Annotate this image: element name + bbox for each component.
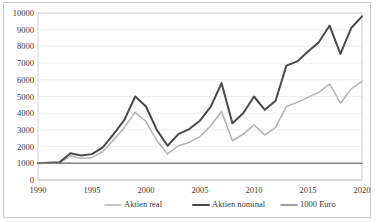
- x-axis-tick-label: 2015: [300, 185, 317, 195]
- legend-label-1000-euro: 1000 Euro: [300, 199, 336, 209]
- x-axis-tick-labels: 1990199520002005201020152020: [30, 185, 371, 195]
- y-axis-tick-label: 6000: [17, 75, 34, 85]
- series-line-aktien-real: [38, 81, 362, 163]
- y-axis-tick-label: 2000: [17, 142, 34, 152]
- y-axis-tick-label: 9000: [17, 25, 34, 35]
- x-axis-tick-label: 1990: [30, 185, 47, 195]
- legend-label-aktien-real: Aktien real: [124, 199, 163, 209]
- y-axis-tick-label: 7000: [17, 58, 34, 68]
- y-axis-tick-label: 0: [30, 175, 34, 185]
- y-axis-tick-label: 10000: [13, 8, 34, 18]
- x-axis-tick-label: 2000: [138, 185, 155, 195]
- x-axis-tick-label: 2005: [192, 185, 209, 195]
- legend-label-aktien-nominal: Aktien nominal: [212, 199, 266, 209]
- y-axis-tick-label: 1000: [17, 158, 34, 168]
- y-axis-tick-label: 8000: [17, 41, 34, 51]
- line-chart: 0100020003000400050006000700080009000100…: [0, 0, 376, 222]
- y-axis-tick-labels: 0100020003000400050006000700080009000100…: [13, 8, 34, 185]
- x-axis-tick-label: 2010: [246, 185, 263, 195]
- series-line-aktien-nominal: [38, 16, 362, 163]
- chart-legend: Aktien realAktien nominal1000 Euro: [105, 199, 336, 209]
- x-axis-tick-label: 1995: [84, 185, 101, 195]
- x-axis-tick-label: 2020: [354, 185, 371, 195]
- y-axis-tick-label: 4000: [17, 108, 34, 118]
- data-series: [38, 16, 362, 163]
- y-axis-tick-label: 5000: [17, 92, 34, 102]
- y-axis-tick-label: 3000: [17, 125, 34, 135]
